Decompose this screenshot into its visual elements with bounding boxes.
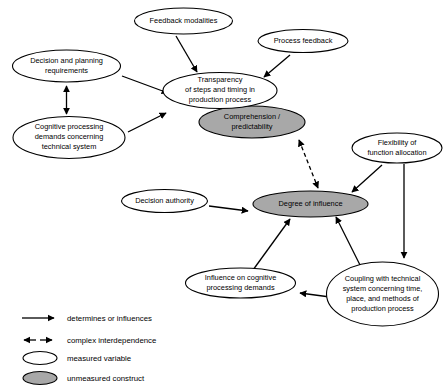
node-label-coupling-line3: place, and methods of [346,294,420,303]
node-label-feedback-modalities: Feedback modalities [150,16,218,25]
node-degree-of-influence[interactable]: Degree of influence [253,191,368,217]
legend-item-unmeasured: unmeasured construct [23,372,145,385]
node-label-influence-cognitive-line2: processing demands [206,283,275,292]
node-label-decision-and-planning-requirements-line1: Decision and planning [30,56,103,65]
node-label-decision-and-planning-requirements-line2: requirements [45,66,88,75]
node-label-coupling-line1: Coupling with technical [345,274,421,283]
legend: determines or influences complex interde… [22,314,156,385]
node-feedback-modalities[interactable]: Feedback modalities [135,8,233,34]
edge-coupling-to-degree-of-influence [336,217,360,265]
legend-item-measured: measured variable [23,352,131,365]
node-label-degree-of-influence: Degree of influence [278,199,342,208]
node-decision-authority[interactable]: Decision authority [122,190,208,213]
edge-process-feedback-to-transparency [264,55,290,77]
grey-ellipse-icon [23,372,57,385]
concept-diagram: Feedback modalities Process feedback Dec… [0,0,446,392]
edge-cognitive-demands-to-transparency [128,113,166,132]
edge-comprehension-degree-interdependence [299,140,318,188]
node-cognitive-processing-demands[interactable]: Cognitive processing demands concerning … [13,117,125,159]
node-label-coupling-line4: production process [351,304,414,313]
legend-label-interdependence: complex interdependence [67,336,156,345]
legend-label-determines: determines or influences [67,314,152,323]
node-coupling-with-technical-system[interactable]: Coupling with technical system concernin… [327,262,439,326]
node-comprehension-predictability[interactable]: Comprehension / predictability [199,106,305,138]
node-label-transparency-line3: production process [189,95,252,104]
edge-coupling-to-influence-cognitive [300,293,330,297]
node-influence-on-cognitive-processing-demands[interactable]: Influence on cognitive processing demand… [186,268,296,298]
edge-decision-planning-to-transparency [122,76,168,93]
node-decision-and-planning-requirements[interactable]: Decision and planning requirements [13,50,121,82]
node-transparency[interactable]: Transparency of steps and timing in prod… [163,73,277,109]
node-label-cognitive-processing-demands-line2: demands concerning [35,132,104,141]
node-label-comprehension-predictability-line2: predictability [231,122,272,131]
diagram-canvas: Feedback modalities Process feedback Dec… [0,0,446,392]
node-process-feedback[interactable]: Process feedback [258,30,348,53]
node-label-comprehension-predictability-line1: Comprehension / [224,112,281,121]
node-label-transparency-line2: of steps and timing in [185,85,255,94]
edge-feedback-modalities-to-transparency [176,36,197,72]
edge-flexibility-to-degree-of-influence [352,165,382,192]
edge-decision-authority-to-degree-of-influence [209,206,248,211]
legend-item-interdependence: complex interdependence [24,336,156,345]
edge-influence-cognitive-to-degree-of-influence [253,219,290,270]
legend-label-measured: measured variable [67,354,131,363]
node-label-coupling-line2: system concerning time, [343,284,423,293]
node-label-flexibility-line1: Flexibility of [378,138,418,147]
node-label-cognitive-processing-demands-line1: Cognitive processing [35,122,104,131]
node-flexibility-of-function-allocation[interactable]: Flexibility of function allocation [352,133,442,163]
node-label-flexibility-line2: function allocation [367,148,426,157]
legend-label-unmeasured: unmeasured construct [67,374,145,383]
node-label-influence-cognitive-line1: Influence on cognitive [205,273,277,282]
node-label-process-feedback: Process feedback [274,36,333,45]
node-label-decision-authority: Decision authority [135,196,194,205]
node-label-cognitive-processing-demands-line3: technical system [42,142,97,151]
white-ellipse-icon [23,352,57,365]
legend-item-determines: determines or influences [22,314,152,323]
node-label-transparency-line1: Transparency [198,75,243,84]
